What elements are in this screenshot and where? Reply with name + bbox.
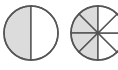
shaded-sector <box>4 6 31 60</box>
unshaded-sector <box>31 6 58 60</box>
fraction-diagram <box>0 0 118 70</box>
halves-circle <box>4 6 58 60</box>
eighths-circle <box>71 6 118 60</box>
